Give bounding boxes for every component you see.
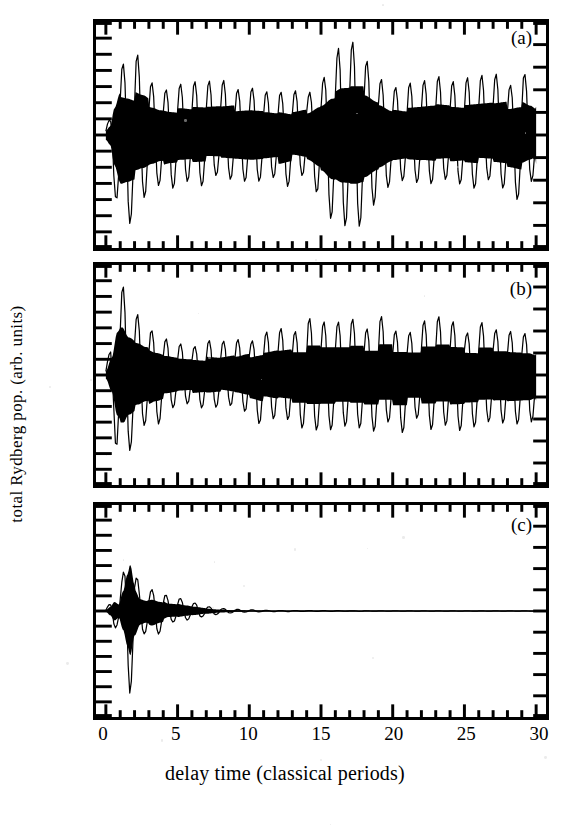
plot-panel-c: (c) (93, 502, 549, 720)
x-axis-title: delay time (classical periods) (0, 762, 570, 785)
plot-panel-b: (b) (93, 262, 549, 488)
scan-speckle (382, 4, 384, 6)
scan-speckle (66, 662, 69, 665)
figure-root: total Rydberg pop. (arb. units) (a) (b) … (0, 0, 570, 828)
scan-speckle (90, 379, 92, 381)
scan-speckle (330, 824, 331, 825)
scan-speckle (356, 113, 357, 114)
waveform-trace (106, 42, 536, 226)
scan-speckle (544, 756, 547, 759)
scan-speckle (315, 259, 317, 261)
waveform-plot-b (96, 265, 546, 485)
scan-speckle (372, 657, 374, 659)
scan-speckle (49, 386, 51, 388)
x-tick-label: 20 (384, 724, 403, 743)
scan-speckle (402, 536, 405, 539)
x-tick-label: 25 (457, 724, 476, 743)
scan-speckle (184, 119, 186, 121)
panel-label-a: (a) (511, 28, 532, 47)
waveform-trace (106, 565, 536, 693)
plot-panel-a: (a) (93, 19, 549, 251)
x-tick-label: 0 (98, 724, 108, 743)
x-axis-tick-labels: 051015202530 (93, 724, 549, 750)
y-axis-title: total Rydberg pop. (arb. units) (0, 0, 36, 828)
scan-speckle (208, 356, 211, 359)
waveform-trace (106, 287, 536, 450)
y-axis-title-text: total Rydberg pop. (arb. units) (7, 305, 29, 522)
scan-speckle (424, 295, 426, 297)
waveform-plot-c (96, 505, 546, 717)
panel-label-b: (b) (510, 279, 532, 298)
panel-label-c: (c) (511, 515, 532, 534)
x-tick-label: 10 (239, 724, 258, 743)
x-tick-label: 15 (312, 724, 331, 743)
x-axis-title-text: delay time (classical periods) (165, 762, 405, 784)
x-tick-label: 5 (171, 724, 181, 743)
scan-speckle (457, 166, 459, 168)
waveform-plot-a (96, 22, 546, 248)
x-tick-label: 30 (530, 724, 549, 743)
scan-speckle (294, 548, 296, 550)
